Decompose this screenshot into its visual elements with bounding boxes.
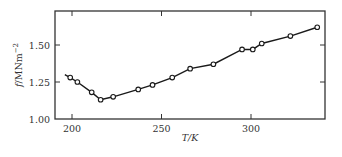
data-point-marker — [315, 25, 320, 30]
chart: 200250300 1.001.251.50 T/K f/MNm−2 — [0, 0, 342, 157]
data-point-marker — [250, 47, 255, 52]
data-point-marker — [150, 83, 155, 88]
data-point-marker — [111, 95, 116, 100]
y-tick-label: 1.00 — [29, 114, 50, 125]
plot-frame — [55, 11, 325, 119]
data-point-marker — [89, 90, 94, 95]
data-point-marker — [98, 97, 103, 102]
x-axis-ticks: 200250300 — [63, 11, 260, 134]
y-tick-label: 1.50 — [29, 40, 50, 51]
data-point-marker — [288, 34, 293, 39]
y-axis-label: f/MNm−2 — [12, 43, 24, 88]
x-axis-label: T/K — [182, 132, 200, 143]
data-series — [65, 25, 320, 102]
data-point-marker — [75, 80, 80, 85]
data-point-marker — [68, 75, 73, 80]
data-point-marker — [170, 75, 175, 80]
data-point-marker — [188, 66, 193, 71]
x-tick-label: 250 — [152, 123, 170, 134]
data-point-marker — [240, 47, 245, 52]
data-point-marker — [136, 87, 141, 92]
data-point-marker — [211, 62, 216, 67]
y-tick-label: 1.25 — [29, 77, 50, 88]
series-line — [65, 27, 317, 100]
y-axis-ticks: 1.001.251.50 — [29, 40, 325, 125]
x-tick-label: 200 — [63, 123, 81, 134]
data-point-marker — [259, 41, 264, 46]
x-tick-label: 300 — [242, 123, 260, 134]
